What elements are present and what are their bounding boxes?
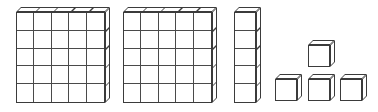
block-cube-right xyxy=(340,79,362,101)
top-face-divider xyxy=(71,8,76,11)
unit-cell xyxy=(34,66,51,84)
unit-cell xyxy=(52,66,69,84)
right-face-divider xyxy=(213,82,216,87)
block-cube-middle xyxy=(308,79,330,101)
block-right-face xyxy=(330,74,335,101)
block-right-face xyxy=(362,74,367,101)
top-face-divider xyxy=(178,8,183,11)
unit-cell xyxy=(17,31,34,49)
unit-cell xyxy=(176,84,193,102)
unit-cell xyxy=(194,13,211,31)
unit-cell xyxy=(194,31,211,49)
block-flat-2 xyxy=(123,12,212,103)
top-face-divider xyxy=(196,8,201,11)
unit-cell xyxy=(159,66,176,84)
unit-cell xyxy=(176,49,193,67)
block-front-face xyxy=(308,79,330,101)
block-front-face xyxy=(234,12,256,103)
right-face-divider xyxy=(106,64,109,69)
top-face-divider xyxy=(89,8,94,11)
top-face-divider xyxy=(161,8,166,11)
unit-cell xyxy=(17,13,34,31)
right-face-divider xyxy=(106,45,109,50)
right-face-divider xyxy=(106,82,109,87)
unit-cell xyxy=(52,84,69,102)
unit-cell xyxy=(87,66,104,84)
unit-cell xyxy=(276,80,296,100)
block-right-face xyxy=(330,40,335,67)
unit-cell xyxy=(124,66,141,84)
unit-cell xyxy=(235,31,255,49)
unit-cell xyxy=(124,49,141,67)
unit-cell xyxy=(235,13,255,31)
unit-cell xyxy=(235,84,255,102)
block-front-face xyxy=(123,12,212,103)
unit-cell xyxy=(17,84,34,102)
unit-cell xyxy=(235,49,255,67)
top-face-divider xyxy=(54,8,59,11)
unit-cell xyxy=(87,49,104,67)
block-front-face xyxy=(340,79,362,101)
unit-cell xyxy=(124,84,141,102)
unit-cell xyxy=(34,13,51,31)
unit-cell xyxy=(17,66,34,84)
block-cube-left xyxy=(275,79,297,101)
right-face-divider xyxy=(106,27,109,32)
right-face-divider xyxy=(213,27,216,32)
unit-cell xyxy=(17,49,34,67)
block-front-face xyxy=(16,12,105,103)
unit-cell xyxy=(341,80,361,100)
block-right-face xyxy=(297,74,302,101)
top-face-divider xyxy=(36,8,41,11)
block-front-face xyxy=(275,79,297,101)
unit-cell xyxy=(141,49,158,67)
unit-cell xyxy=(194,66,211,84)
block-rod-1 xyxy=(234,12,256,103)
base-ten-blocks-figure xyxy=(0,0,378,112)
unit-cell xyxy=(176,13,193,31)
right-face-divider xyxy=(257,45,260,50)
right-face-divider xyxy=(257,27,260,32)
unit-cell xyxy=(141,31,158,49)
unit-cell xyxy=(87,84,104,102)
block-cube-top xyxy=(308,45,330,67)
unit-cell xyxy=(69,66,86,84)
unit-cell xyxy=(176,66,193,84)
unit-cell xyxy=(52,31,69,49)
unit-cell xyxy=(34,31,51,49)
unit-cell xyxy=(141,66,158,84)
unit-cell xyxy=(141,84,158,102)
right-face-divider xyxy=(213,64,216,69)
block-right-face xyxy=(105,7,110,103)
unit-cell xyxy=(194,49,211,67)
unit-cell xyxy=(34,49,51,67)
unit-cell xyxy=(69,13,86,31)
right-face-divider xyxy=(257,82,260,87)
unit-cell xyxy=(159,49,176,67)
unit-cell xyxy=(194,84,211,102)
unit-cell xyxy=(159,84,176,102)
right-face-divider xyxy=(213,45,216,50)
unit-cell xyxy=(309,80,329,100)
block-front-face xyxy=(308,45,330,67)
unit-cell xyxy=(159,31,176,49)
block-right-face xyxy=(212,7,217,103)
unit-cell xyxy=(69,49,86,67)
unit-cell xyxy=(141,13,158,31)
block-right-face xyxy=(256,7,261,103)
unit-cell xyxy=(124,31,141,49)
block-flat-1 xyxy=(16,12,105,103)
unit-cell xyxy=(69,84,86,102)
unit-cell xyxy=(235,66,255,84)
unit-cell xyxy=(124,13,141,31)
unit-cell xyxy=(87,13,104,31)
unit-cell xyxy=(52,13,69,31)
unit-cell xyxy=(69,31,86,49)
unit-cell xyxy=(52,49,69,67)
unit-cell xyxy=(176,31,193,49)
unit-cell xyxy=(34,84,51,102)
unit-cell xyxy=(159,13,176,31)
unit-cell xyxy=(309,46,329,66)
top-face-divider xyxy=(143,8,148,11)
unit-cell xyxy=(87,31,104,49)
